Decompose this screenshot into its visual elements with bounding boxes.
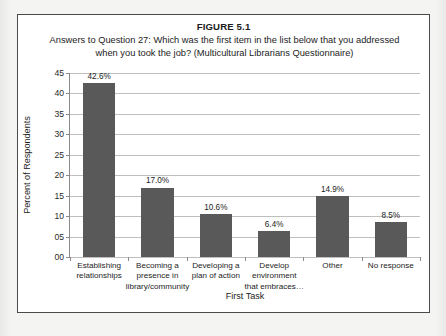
category-label-line: that embraces…: [244, 282, 303, 291]
gridline: [70, 237, 420, 238]
bar: [316, 196, 349, 257]
gridline: [70, 73, 420, 74]
y-tick-label: 45: [54, 68, 64, 78]
y-tick-label: 15: [54, 191, 64, 201]
y-axis-line: [69, 73, 70, 257]
category-label-line: library/community: [126, 282, 189, 291]
y-tick-label: 20: [54, 170, 64, 180]
y-tick-mark: [66, 114, 70, 115]
y-tick-label: 00: [54, 252, 64, 262]
bar-value-label: 17.0%: [146, 176, 169, 185]
gridline: [70, 216, 420, 217]
bar: [375, 222, 408, 257]
category-label-line: environment: [252, 271, 297, 280]
bar-value-label: 14.9%: [321, 185, 344, 194]
figure-frame: FIGURE 5.1 Answers to Question 27: Which…: [17, 14, 430, 313]
category-label-line: presence in: [137, 271, 179, 280]
y-tick-mark: [66, 155, 70, 156]
y-tick-mark: [66, 93, 70, 94]
x-category-label: No response: [356, 261, 426, 271]
gridline: [70, 196, 420, 197]
bar: [141, 188, 174, 258]
bar: [83, 83, 116, 257]
category-label-line: Establishing: [77, 261, 121, 270]
bar-value-label: 10.6%: [204, 203, 227, 212]
y-tick-mark: [66, 134, 70, 135]
category-label-line: No response: [368, 261, 414, 270]
category-label-line: Develop: [259, 261, 289, 270]
bar-value-label: 6.4%: [265, 220, 284, 229]
y-axis-title: Percent of Respondents: [22, 116, 32, 214]
page-canvas: FIGURE 5.1 Answers to Question 27: Which…: [0, 0, 446, 336]
y-tick-label: 25: [54, 150, 64, 160]
y-tick-mark: [66, 237, 70, 238]
gridline: [70, 134, 420, 135]
gridline: [70, 175, 420, 176]
bar-chart: Percent of Respondents First Task 000510…: [18, 15, 430, 313]
y-tick-mark: [66, 196, 70, 197]
category-label-line: plan of action: [192, 271, 240, 280]
y-tick-label: 35: [54, 109, 64, 119]
category-label-line: Developing a: [192, 261, 239, 270]
gridline: [70, 93, 420, 94]
y-tick-label: 30: [54, 129, 64, 139]
gridline: [70, 114, 420, 115]
y-tick-mark: [66, 73, 70, 74]
bar-value-label: 8.5%: [381, 211, 400, 220]
y-tick-label: 05: [54, 232, 64, 242]
x-axis-title: First Task: [70, 291, 420, 301]
y-tick-mark: [66, 216, 70, 217]
category-label-line: Becoming a: [136, 261, 179, 270]
bar-value-label: 42.6%: [88, 72, 111, 81]
category-label-line: relationships: [76, 271, 121, 280]
bar: [258, 231, 291, 257]
y-tick-label: 40: [54, 88, 64, 98]
y-tick-mark: [66, 175, 70, 176]
bar: [200, 214, 233, 257]
plot-area: 00051015202530354045 42.6%17.0%10.6%6.4%…: [70, 73, 420, 257]
category-label-line: Other: [322, 261, 342, 270]
gridline: [70, 155, 420, 156]
y-tick-label: 10: [54, 211, 64, 221]
